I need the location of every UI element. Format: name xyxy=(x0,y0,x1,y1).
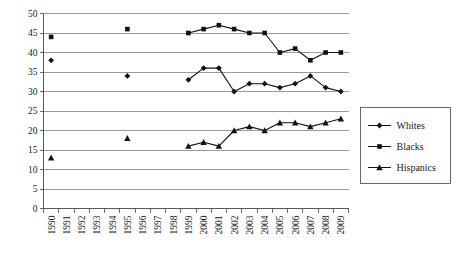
series-whites xyxy=(48,57,344,94)
gridlines xyxy=(44,14,349,190)
y-tick-label-20: 20 xyxy=(28,126,38,136)
data-point-whites-2009 xyxy=(338,89,344,95)
x-tick-label-2000: 2000 xyxy=(199,215,209,234)
x-tick-label-2005: 2005 xyxy=(275,215,285,234)
data-point-hispanics-2009 xyxy=(338,116,344,122)
y-tick-label-25: 25 xyxy=(28,106,38,116)
x-tick-label-2003: 2003 xyxy=(245,215,255,234)
x-tick-label-1993: 1993 xyxy=(92,215,102,234)
y-axis-tick-labels: 05101520253035404550 xyxy=(28,9,38,214)
series-line-blacks-0 xyxy=(188,25,341,60)
x-tick-label-1994: 1994 xyxy=(108,215,118,234)
chart-legend: WhitesBlacksHispanics xyxy=(361,108,451,184)
chart-container: 05101520253035404550 1990199119921993199… xyxy=(0,0,458,266)
data-point-blacks-2002 xyxy=(232,27,237,32)
data-point-whites-2005 xyxy=(277,85,283,91)
data-point-blacks-2009 xyxy=(339,50,344,55)
y-axis xyxy=(40,14,44,209)
data-point-whites-2001 xyxy=(216,65,222,71)
x-tick-label-2007: 2007 xyxy=(306,215,316,234)
legend-marker-square xyxy=(377,144,382,149)
data-point-whites-2004 xyxy=(262,81,268,87)
y-tick-label-30: 30 xyxy=(28,87,38,97)
data-point-blacks-1995 xyxy=(125,27,130,32)
y-tick-label-40: 40 xyxy=(28,48,38,58)
legend-label-whites: Whites xyxy=(397,120,425,131)
legend-label-hispanics: Hispanics xyxy=(397,162,437,173)
data-point-blacks-2005 xyxy=(278,50,283,55)
x-tick-label-2001: 2001 xyxy=(214,215,224,234)
x-tick-label-1997: 1997 xyxy=(153,215,163,234)
data-point-whites-1995 xyxy=(124,73,130,79)
x-tick-label-1991: 1991 xyxy=(62,215,72,234)
x-axis-tick-labels: 1990199119921993199419951996199719981999… xyxy=(47,215,347,234)
data-point-hispanics-1995 xyxy=(124,135,130,141)
data-point-blacks-2008 xyxy=(323,50,328,55)
x-axis xyxy=(44,209,349,213)
data-point-hispanics-2003 xyxy=(246,123,252,129)
data-point-hispanics-1990 xyxy=(48,155,54,161)
series-hispanics xyxy=(48,116,344,161)
x-tick-label-2004: 2004 xyxy=(260,215,270,234)
x-tick-label-1992: 1992 xyxy=(77,215,87,234)
data-point-blacks-2000 xyxy=(201,27,206,32)
legend-label-blacks: Blacks xyxy=(397,141,424,152)
x-tick-label-2009: 2009 xyxy=(336,215,346,234)
data-point-whites-2003 xyxy=(246,81,252,87)
data-point-whites-2006 xyxy=(292,81,298,87)
data-point-hispanics-2000 xyxy=(200,139,206,145)
y-tick-label-5: 5 xyxy=(33,184,38,194)
data-point-whites-1990 xyxy=(48,57,54,63)
data-point-blacks-2006 xyxy=(293,46,298,51)
x-tick-label-1998: 1998 xyxy=(169,215,179,234)
data-point-blacks-2007 xyxy=(308,58,313,63)
y-tick-label-45: 45 xyxy=(28,28,38,38)
x-tick-label-1990: 1990 xyxy=(47,215,57,234)
y-tick-label-0: 0 xyxy=(33,204,38,214)
y-tick-label-10: 10 xyxy=(28,165,38,175)
data-point-blacks-2001 xyxy=(217,23,222,28)
data-point-blacks-2004 xyxy=(262,31,267,36)
y-tick-label-35: 35 xyxy=(28,67,38,77)
series-blacks xyxy=(49,23,343,63)
x-tick-label-2008: 2008 xyxy=(321,215,331,234)
line-chart: 05101520253035404550 1990199119921993199… xyxy=(0,0,458,266)
x-tick-label-2002: 2002 xyxy=(230,215,240,234)
data-point-whites-2002 xyxy=(231,89,237,95)
x-tick-label-1995: 1995 xyxy=(123,215,133,234)
data-point-blacks-1990 xyxy=(49,35,54,40)
x-tick-label-1999: 1999 xyxy=(184,215,194,234)
data-point-blacks-2003 xyxy=(247,31,252,36)
data-point-blacks-1999 xyxy=(186,31,191,36)
x-tick-label-1996: 1996 xyxy=(138,215,148,234)
y-tick-label-50: 50 xyxy=(28,9,38,19)
y-tick-label-15: 15 xyxy=(28,145,38,155)
x-tick-label-2006: 2006 xyxy=(291,215,301,234)
